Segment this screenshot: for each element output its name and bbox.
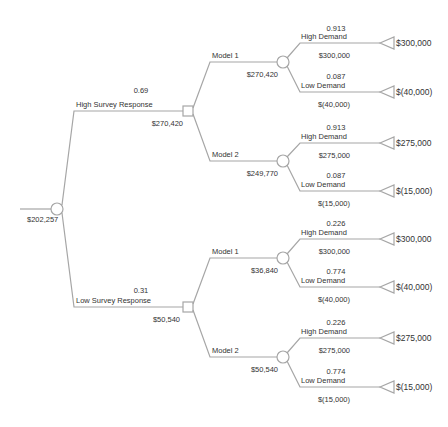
terminal-node bbox=[380, 86, 394, 98]
hs-model2-label: Model 2 bbox=[212, 150, 239, 159]
ls-model1-label: Model 1 bbox=[212, 247, 239, 256]
outcome-branch-value: $300,000 bbox=[319, 51, 350, 60]
outcome-probability: 0.913 bbox=[327, 123, 346, 132]
outcome-branch-value: $275,000 bbox=[319, 151, 350, 160]
root-expected-value: $202,257 bbox=[27, 215, 58, 224]
high-survey-decision-value: $270,420 bbox=[152, 119, 183, 128]
terminal-node bbox=[380, 332, 394, 344]
terminal-payoff: $300,000 bbox=[396, 234, 431, 244]
high-survey-probability: 0.69 bbox=[134, 86, 149, 95]
outcome-probability: 0.226 bbox=[327, 219, 346, 228]
terminal-node bbox=[380, 281, 394, 293]
ls-model1-chance-value: $36,840 bbox=[251, 266, 278, 275]
terminal-node bbox=[380, 137, 394, 149]
low-survey-probability: 0.31 bbox=[134, 286, 149, 295]
outcome-label: Low Demand bbox=[301, 276, 345, 285]
terminal-node bbox=[380, 233, 394, 245]
outcome-label: Low Demand bbox=[301, 81, 345, 90]
low-survey-label: Low Survey Response bbox=[76, 296, 151, 305]
outcome-label: Low Demand bbox=[301, 180, 345, 189]
outcome-branch-value: $275,000 bbox=[319, 346, 350, 355]
terminal-payoff: $275,000 bbox=[396, 333, 431, 343]
branch-low-survey bbox=[62, 213, 183, 307]
terminal-node bbox=[380, 185, 394, 197]
hs-model1-chance-value: $270,420 bbox=[247, 70, 278, 79]
terminal-payoff: $275,000 bbox=[396, 138, 431, 148]
terminal-payoff: $(15,000) bbox=[396, 382, 432, 392]
ls-model2-chance-value: $50,540 bbox=[251, 365, 278, 374]
outcome-label: High Demand bbox=[301, 32, 347, 41]
low-survey-decision-value: $50,540 bbox=[153, 315, 180, 324]
outcome-branch-value: $(15,000) bbox=[318, 395, 350, 404]
outcome-branch-value: $(40,000) bbox=[318, 100, 350, 109]
outcome-probability: 0.774 bbox=[327, 267, 346, 276]
terminal-payoff: $(40,000) bbox=[396, 282, 432, 292]
terminal-payoff: $(40,000) bbox=[396, 87, 432, 97]
outcome-label: High Demand bbox=[301, 132, 347, 141]
decision-node-high-survey bbox=[183, 106, 193, 116]
terminal-payoff: $(15,000) bbox=[396, 186, 432, 196]
terminal-node bbox=[380, 381, 394, 393]
decision-tree-lines bbox=[0, 0, 448, 427]
ls-model2-label: Model 2 bbox=[212, 346, 239, 355]
high-survey-label: High Survey Response bbox=[76, 100, 153, 109]
outcome-label: High Demand bbox=[301, 327, 347, 336]
outcome-branch-value: $(15,000) bbox=[318, 199, 350, 208]
terminal-payoff: $300,000 bbox=[396, 38, 431, 48]
outcome-branch-value: $300,000 bbox=[319, 247, 350, 256]
outcome-branch-value: $(40,000) bbox=[318, 295, 350, 304]
decision-node-low-survey bbox=[183, 302, 193, 312]
outcome-probability: 0.087 bbox=[327, 171, 346, 180]
outcome-probability: 0.774 bbox=[327, 367, 346, 376]
outcome-probability: 0.226 bbox=[327, 318, 346, 327]
terminal-node bbox=[380, 37, 394, 49]
outcome-label: Low Demand bbox=[301, 376, 345, 385]
hs-model2-chance-value: $249,770 bbox=[247, 169, 278, 178]
root-chance-node bbox=[51, 203, 63, 215]
outcome-probability: 0.087 bbox=[327, 72, 346, 81]
hs-model1-label: Model 1 bbox=[212, 51, 239, 60]
outcome-label: High Demand bbox=[301, 228, 347, 237]
